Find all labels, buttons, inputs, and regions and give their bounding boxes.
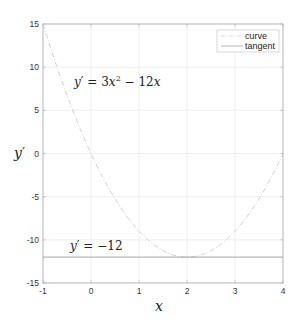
chart: -101234-15-10-5051015 y′ = 3x2 − 12x y′ … bbox=[0, 0, 300, 324]
y-tick-label: -10 bbox=[27, 235, 40, 245]
y-tick-label: 10 bbox=[30, 62, 40, 72]
x-axis-label: x bbox=[155, 298, 163, 314]
y-tick-label: -15 bbox=[27, 278, 40, 288]
curve-line bbox=[43, 24, 283, 257]
legend: curve tangent bbox=[217, 30, 279, 52]
x-tick-label: -1 bbox=[39, 286, 47, 296]
annotation-tangent-equation: y′ = −12 bbox=[69, 239, 123, 253]
y-axis-label: y′ bbox=[13, 145, 25, 161]
x-tick-label: 4 bbox=[281, 286, 286, 296]
legend-label-tangent: tangent bbox=[245, 41, 276, 51]
x-tick-label: 2 bbox=[185, 286, 190, 296]
legend-label-curve: curve bbox=[245, 31, 267, 41]
tick-labels: -101234-15-10-5051015 bbox=[27, 19, 286, 296]
x-tick-label: 1 bbox=[137, 286, 142, 296]
x-tick-label: 0 bbox=[89, 286, 94, 296]
y-tick-label: -5 bbox=[31, 192, 39, 202]
y-tick-label: 5 bbox=[34, 105, 39, 115]
y-tick-label: 0 bbox=[34, 149, 39, 159]
data-series bbox=[43, 24, 283, 257]
y-tick-label: 15 bbox=[30, 19, 40, 29]
x-tick-label: 3 bbox=[233, 286, 238, 296]
annotation-curve-equation: y′ = 3x2 − 12x bbox=[73, 74, 161, 89]
